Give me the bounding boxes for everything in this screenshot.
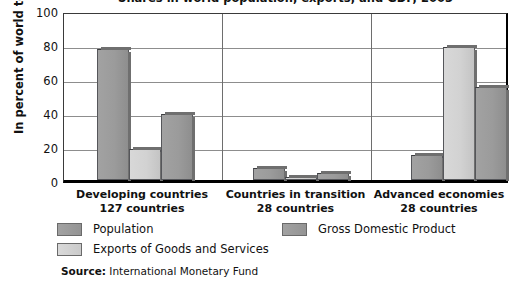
bar-chart: Shares in world population, exports, and… [0,0,530,285]
bar [317,173,349,180]
y-tick-40: 40 [24,110,58,122]
bar-shadow-top [415,153,445,156]
y-tick-60: 60 [24,76,58,88]
bar-shadow-right [192,117,195,181]
bar-shadow-top [165,112,195,115]
source-value: International Monetary Fund [109,265,258,277]
legend-swatch-icon [282,223,307,236]
plot-area [63,13,508,183]
y-tick-80: 80 [24,42,58,54]
bar-shadow-top [101,47,131,50]
legend-label: Gross Domestic Product [318,222,456,236]
bar [443,47,475,180]
bar [411,155,443,181]
bar-shadow-top [447,45,477,48]
legend-label: Population [93,222,153,236]
bar-shadow-top [479,85,509,88]
category-name: Countries in transition [226,188,366,201]
bar-shadow-right [348,176,351,181]
legend-label: Exports of Goods and Services [93,242,269,256]
legend-item-gross-domestic-product: Gross Domestic Product [282,222,456,236]
category-sublabel: 28 countries [221,202,370,216]
source-label: Source: [61,265,106,277]
bar [97,49,129,180]
y-tick-0: 0 [24,178,58,190]
x-axis-category-labels: Developing countries 127 countries Count… [63,188,508,220]
category-label-advanced-economies: Advanced economies 28 countries [370,188,508,216]
legend-item-population: Population [57,222,153,236]
bar-shadow-top [289,175,319,178]
category-name: Advanced economies [374,188,505,201]
bar-shadow-top [257,166,287,169]
group-separator-2 [371,14,372,180]
group-separator-1 [222,14,223,180]
bar-shadow-right [506,90,509,182]
bar-shadow-top [133,147,163,150]
y-tick-20: 20 [24,144,58,156]
chart-title: Shares in world population, exports, and… [63,0,508,5]
source-note: Source: International Monetary Fund [61,265,258,277]
category-sublabel: 127 countries [63,202,221,216]
bar [161,114,193,180]
y-axis-tick-labels: 100 80 60 40 20 0 [22,13,58,183]
bar [285,177,317,180]
legend-item-exports-of-goods-and-services: Exports of Goods and Services [57,242,269,256]
chart-legend: Population Exports of Goods and Services… [57,222,517,258]
bar [129,149,161,180]
legend-swatch-icon [57,243,82,256]
bar-shadow-top [321,171,351,174]
bar [253,168,285,180]
category-label-developing-countries: Developing countries 127 countries [63,188,221,216]
category-name: Developing countries [76,188,208,201]
legend-swatch-icon [57,223,82,236]
category-label-countries-in-transition: Countries in transition 28 countries [221,188,370,216]
bar [475,87,507,181]
category-sublabel: 28 countries [370,202,508,216]
y-tick-100: 100 [24,8,58,20]
